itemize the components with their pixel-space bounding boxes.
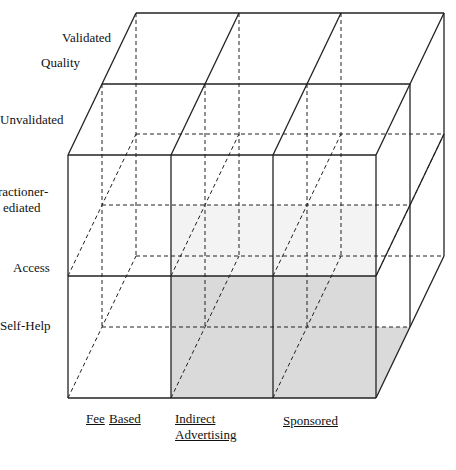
label-access: Access bbox=[13, 260, 50, 276]
label-quality: Quality bbox=[41, 55, 80, 71]
label-validated: Validated bbox=[62, 30, 111, 46]
label-fee: Fee bbox=[86, 411, 105, 427]
shaded-region bbox=[171, 276, 410, 398]
label-sponsored: Sponsored bbox=[283, 413, 338, 429]
label-unvalidated: Unvalidated bbox=[0, 112, 64, 128]
label-practitioner-line1: ractioner- bbox=[0, 184, 48, 200]
label-self-help: Self-Help bbox=[0, 318, 51, 334]
label-indirect: Indirect bbox=[175, 411, 215, 427]
label-practitioner-line2: ediated bbox=[3, 200, 41, 216]
label-advertising: Advertising bbox=[175, 427, 236, 443]
label-based: Based bbox=[109, 411, 141, 427]
